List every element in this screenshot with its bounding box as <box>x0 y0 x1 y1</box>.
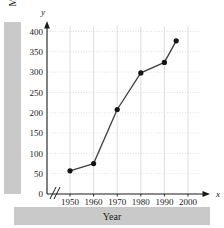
data-line <box>70 41 176 171</box>
data-point <box>91 161 96 166</box>
x-tick-label: 1980 <box>132 197 151 207</box>
data-point <box>67 168 72 173</box>
x-tick-label: 1990 <box>155 197 174 207</box>
x-tick-label: 1950 <box>61 197 80 207</box>
y-tick-label: 400 <box>30 27 44 37</box>
x-axis-ticks: 195019601970198019902000 <box>61 194 198 207</box>
chart-figure: Master's degrees (thousands) Year 050100… <box>0 0 224 228</box>
y-tick-label: 350 <box>30 47 44 57</box>
y-axis-symbol: y <box>40 7 45 17</box>
y-tick-label: 150 <box>30 128 44 138</box>
y-axis <box>44 21 50 194</box>
y-tick-label: 250 <box>30 88 44 98</box>
x-axis-symbol: x <box>215 189 220 199</box>
data-point <box>174 38 179 43</box>
data-point <box>138 70 143 75</box>
axis-break-mark <box>50 187 60 199</box>
y-tick-label: 50 <box>34 169 44 179</box>
data-point <box>115 107 120 112</box>
y-tick-label: 300 <box>30 67 44 77</box>
y-tick-label: 100 <box>30 149 44 159</box>
y-axis-ticks: 050100150200250300350400 <box>30 27 44 200</box>
plot-area: 050100150200250300350400 195019601970198… <box>0 0 224 228</box>
x-tick-label: 1970 <box>108 197 127 207</box>
x-tick-label: 1960 <box>85 197 104 207</box>
data-point <box>162 60 167 65</box>
y-tick-label: 0 <box>39 189 44 199</box>
x-tick-label: 2000 <box>179 197 198 207</box>
y-tick-label: 200 <box>30 108 44 118</box>
